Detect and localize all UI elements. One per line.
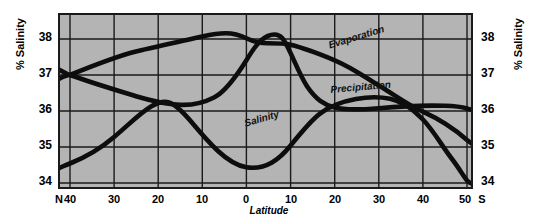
series-precipitation xyxy=(60,34,471,111)
y-tick-left-36: 36 xyxy=(30,103,52,115)
x-tick-40s: 40 xyxy=(411,194,435,205)
x-tick-30n: 30 xyxy=(102,194,126,205)
x-tick-30s: 30 xyxy=(367,194,391,205)
chart-svg xyxy=(60,15,471,187)
x-axis-south-marker: S xyxy=(475,194,489,205)
y-tick-right-35: 35 xyxy=(481,139,494,151)
x-tick-10n: 10 xyxy=(190,194,214,205)
y-tick-right-38: 38 xyxy=(481,31,494,43)
y-axis-title-right: % Salinity xyxy=(512,18,524,70)
x-tick-20s: 20 xyxy=(323,194,347,205)
grid-lines xyxy=(60,15,471,187)
x-axis-title: Latitude xyxy=(0,205,538,216)
plot-area xyxy=(58,13,473,189)
y-axis-title-left: % Salinity xyxy=(14,54,26,70)
y-tick-left-38: 38 xyxy=(30,31,52,43)
y-tick-right-36: 36 xyxy=(481,103,494,115)
chart-figure: Evaporation Precipitation Salinity 38 37… xyxy=(0,0,538,219)
x-tick-20n: 20 xyxy=(146,194,170,205)
x-tick-40n: 40 xyxy=(58,194,82,205)
x-tick-10s: 10 xyxy=(279,194,303,205)
series-salinity xyxy=(60,97,471,184)
x-tick-50s: 50 xyxy=(453,194,477,205)
y-tick-left-35: 35 xyxy=(30,139,52,151)
y-tick-left-34: 34 xyxy=(30,175,52,187)
y-tick-right-34: 34 xyxy=(481,175,494,187)
y-tick-right-37: 37 xyxy=(481,67,494,79)
y-tick-left-37: 37 xyxy=(30,67,52,79)
x-tick-0: 0 xyxy=(234,194,258,205)
